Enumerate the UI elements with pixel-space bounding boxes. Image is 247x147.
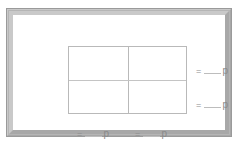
figure-canvas: = p = p = p = p bbox=[13, 15, 225, 130]
answer-blank-input[interactable] bbox=[85, 130, 102, 137]
answer-blank-input[interactable] bbox=[204, 101, 221, 108]
column-label-left[interactable]: = p bbox=[77, 128, 109, 139]
figure-frame: = p = p = p = p bbox=[7, 9, 231, 136]
unit-label: p bbox=[162, 128, 168, 139]
equals-sign: = bbox=[196, 66, 202, 76]
unit-label: p bbox=[223, 65, 229, 76]
unit-label: p bbox=[104, 128, 110, 139]
row-label-bottom[interactable]: = p bbox=[196, 99, 228, 110]
equals-sign: = bbox=[77, 129, 83, 139]
answer-blank-input[interactable] bbox=[143, 130, 160, 137]
equals-sign: = bbox=[196, 100, 202, 110]
row-label-top[interactable]: = p bbox=[196, 65, 228, 76]
answer-blank-input[interactable] bbox=[204, 67, 221, 74]
equals-sign: = bbox=[135, 129, 141, 139]
column-label-right[interactable]: = p bbox=[135, 128, 167, 139]
area-model-grid bbox=[68, 46, 187, 114]
grid-divider-horizontal-icon bbox=[69, 80, 186, 81]
worksheet-figure: = p = p = p = p bbox=[0, 0, 247, 147]
unit-label: p bbox=[223, 99, 229, 110]
